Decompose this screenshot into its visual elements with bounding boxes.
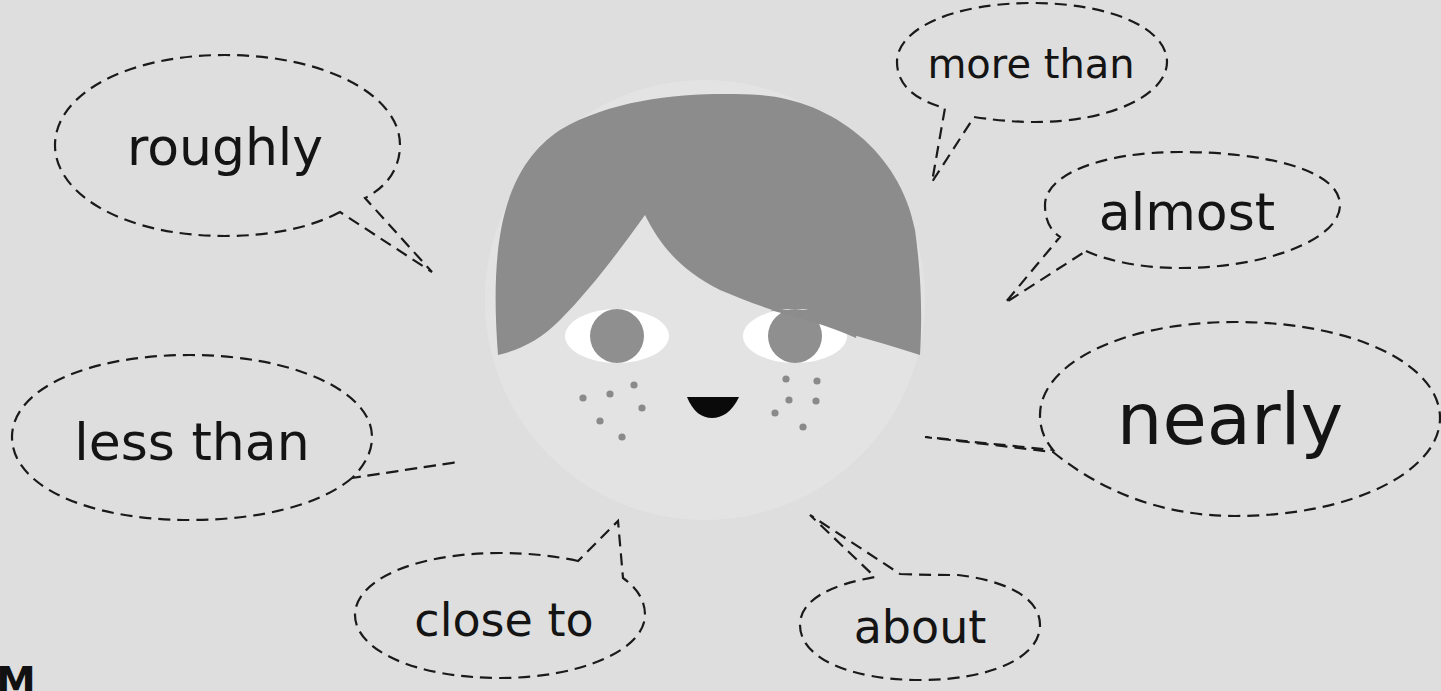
speech-bubble-less-than: less than — [12, 355, 458, 520]
speech-bubble-roughly: roughly — [55, 55, 432, 272]
bubble-text-about: about — [854, 600, 987, 654]
face-illustration: roughly more than almost nearly less tha… — [0, 0, 1441, 691]
bubble-text-nearly: nearly — [1117, 377, 1343, 461]
speech-bubble-nearly: nearly — [925, 322, 1440, 516]
bubble-text-almost: almost — [1099, 182, 1275, 242]
left-eye — [565, 309, 669, 363]
face — [485, 80, 925, 520]
bubble-text-more-than: more than — [927, 41, 1134, 87]
speech-bubble-almost: almost — [1005, 152, 1340, 303]
bubble-text-roughly: roughly — [127, 117, 323, 177]
speech-bubble-more-than: more than — [897, 3, 1167, 182]
illustration-canvas: roughly more than almost nearly less tha… — [0, 0, 1441, 691]
bubble-text-less-than: less than — [74, 412, 309, 472]
speech-bubble-about: about — [800, 515, 1040, 680]
cropped-letter-fragment: M — [0, 662, 36, 691]
bubble-text-close-to: close to — [414, 593, 593, 647]
speech-bubble-close-to: close to — [355, 521, 645, 678]
